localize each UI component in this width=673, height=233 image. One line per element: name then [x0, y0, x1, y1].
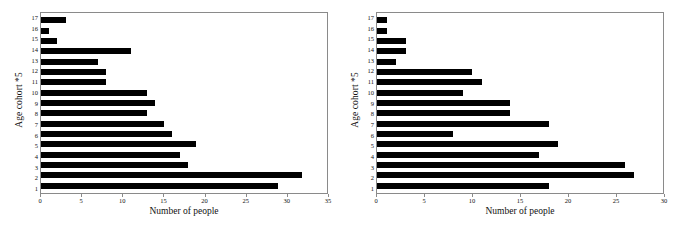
x-axis-tick-label: 0 — [374, 197, 377, 204]
x-axis-tick-label: 15 — [160, 197, 167, 204]
y-axis-tick-label: 7 — [358, 121, 374, 128]
bar — [377, 172, 634, 178]
y-axis-tick-label: 8 — [22, 110, 38, 117]
y-axis-tick-label: 13 — [358, 57, 374, 64]
bar-row — [377, 162, 663, 168]
y-axis-tick-label: 8 — [358, 110, 374, 117]
x-axis-tick-label: 5 — [422, 197, 425, 204]
bar — [377, 90, 463, 96]
bar — [41, 69, 106, 75]
bar-row — [41, 79, 327, 85]
bar-row — [41, 69, 327, 75]
bar-row — [377, 28, 663, 34]
bar-row — [41, 59, 327, 65]
bar-row — [377, 38, 663, 44]
bar-row — [377, 100, 663, 106]
bar-row — [377, 17, 663, 23]
y-axis-tick-labels: 1234567891011121314151617 — [22, 14, 38, 192]
bar — [377, 141, 558, 147]
bar — [377, 110, 510, 116]
bar-row — [41, 90, 327, 96]
bar-row — [41, 38, 327, 44]
y-axis-tick-label: 10 — [358, 89, 374, 96]
y-axis-tick-label: 14 — [22, 46, 38, 53]
bar — [41, 141, 196, 147]
bar-row — [377, 69, 663, 75]
plot-area — [40, 12, 328, 194]
left-panel: Age cohort *5 1234567891011121314151617 … — [0, 0, 336, 233]
bar-row — [41, 183, 327, 189]
x-axis-title: Number of people — [40, 206, 328, 216]
bar-row — [377, 131, 663, 137]
bar — [377, 152, 539, 158]
bar — [41, 172, 302, 178]
bar — [41, 28, 49, 34]
bar — [41, 162, 188, 168]
bar-row — [41, 172, 327, 178]
bar — [41, 17, 66, 23]
x-axis-tick-label: 30 — [661, 197, 668, 204]
y-axis-tick-label: 4 — [358, 153, 374, 160]
bar — [377, 162, 625, 168]
x-axis-tick-label: 25 — [613, 197, 620, 204]
bar-row — [41, 131, 327, 137]
y-axis-tick-label: 1 — [358, 185, 374, 192]
x-axis-ticks: 051015202530 — [376, 194, 664, 206]
x-axis-tick-label: 25 — [242, 197, 249, 204]
bar — [41, 48, 131, 54]
bar — [41, 38, 57, 44]
y-axis-tick-label: 12 — [22, 67, 38, 74]
y-axis-tick-label: 14 — [358, 46, 374, 53]
bar-row — [377, 152, 663, 158]
bar-row — [377, 48, 663, 54]
bar — [377, 100, 510, 106]
bar-row — [41, 48, 327, 54]
bar — [377, 28, 387, 34]
bar-row — [41, 121, 327, 127]
y-axis-tick-label: 9 — [358, 100, 374, 107]
bar-series — [41, 13, 327, 193]
bar — [41, 131, 172, 137]
y-axis-tick-label: 17 — [22, 14, 38, 21]
bar-row — [377, 121, 663, 127]
x-axis-tick-label: 5 — [80, 197, 83, 204]
bar — [41, 152, 180, 158]
y-axis-tick-label: 2 — [358, 174, 374, 181]
x-axis-tick-label: 15 — [517, 197, 524, 204]
plot-area — [376, 12, 664, 194]
y-axis-tick-label: 3 — [22, 164, 38, 171]
bar-row — [41, 141, 327, 147]
y-axis-tick-label: 15 — [358, 35, 374, 42]
y-axis-tick-labels: 1234567891011121314151617 — [358, 14, 374, 192]
bar-row — [41, 28, 327, 34]
x-axis-tick-label: 0 — [38, 197, 41, 204]
y-axis-tick-label: 6 — [22, 132, 38, 139]
y-axis-tick-label: 11 — [22, 78, 38, 85]
x-axis-tick-label: 10 — [469, 197, 476, 204]
y-axis-tick-label: 10 — [22, 89, 38, 96]
bar-row — [377, 110, 663, 116]
y-axis-tick-label: 11 — [358, 78, 374, 85]
bar — [377, 59, 396, 65]
bar — [41, 79, 106, 85]
bar — [41, 100, 155, 106]
y-axis-tick-label: 6 — [358, 132, 374, 139]
x-axis-tick-label: 20 — [201, 197, 208, 204]
bar-row — [377, 172, 663, 178]
y-axis-tick-label: 16 — [358, 25, 374, 32]
y-axis-tick-label: 9 — [22, 100, 38, 107]
x-axis-title: Number of people — [376, 206, 664, 216]
bar-series — [377, 13, 663, 193]
bar — [377, 69, 472, 75]
bar-row — [41, 110, 327, 116]
bar — [41, 183, 278, 189]
bar — [41, 90, 147, 96]
y-axis-tick-label: 4 — [22, 153, 38, 160]
y-axis-tick-label: 1 — [22, 185, 38, 192]
bar-row — [377, 59, 663, 65]
y-axis-tick-label: 2 — [22, 174, 38, 181]
bar — [377, 79, 482, 85]
y-axis-tick-label: 3 — [358, 164, 374, 171]
y-axis-tick-label: 5 — [22, 142, 38, 149]
right-panel: Age cohort *5 1234567891011121314151617 … — [336, 0, 672, 233]
